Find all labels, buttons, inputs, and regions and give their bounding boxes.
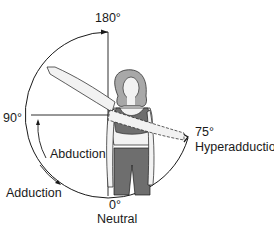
abduction-arrow xyxy=(38,122,46,158)
adduction-arrow xyxy=(40,165,58,183)
face xyxy=(123,77,139,99)
label-hyperadduction: Hyperadduction xyxy=(195,141,274,154)
pants xyxy=(114,148,150,195)
abduction-arrow-head xyxy=(36,119,40,125)
label-75: 75° xyxy=(195,126,214,139)
label-0: 0° xyxy=(109,199,121,212)
arrow-head-top xyxy=(101,30,108,35)
label-abduction: Abduction xyxy=(50,148,106,161)
label-180: 180° xyxy=(95,12,121,25)
neck xyxy=(127,97,135,105)
label-neutral: Neutral xyxy=(97,213,137,226)
right-arm xyxy=(147,110,154,185)
label-90: 90° xyxy=(3,112,22,125)
label-adduction: Adduction xyxy=(6,187,62,200)
raised-arm xyxy=(47,67,115,112)
